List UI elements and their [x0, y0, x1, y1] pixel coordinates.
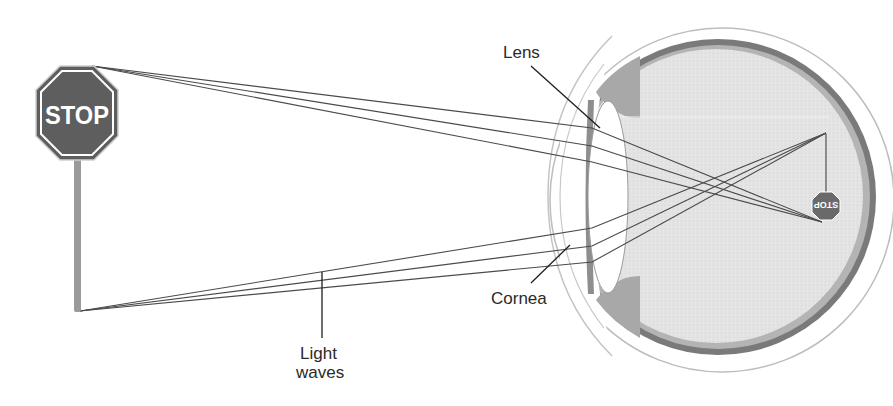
light-waves-label-line1: Light [300, 344, 337, 364]
stop-sign-text: STOP [45, 100, 109, 130]
lens-label: Lens [503, 43, 540, 63]
diagram-canvas: STOP STOP [0, 0, 893, 406]
eye-optics-diagram: STOP STOP Lens Cornea Light waves [0, 0, 893, 406]
stop-sign-pole [74, 158, 81, 312]
inverted-stop-text: STOP [814, 200, 838, 210]
stop-sign: STOP [36, 66, 118, 312]
lens [588, 101, 628, 293]
light-waves-label-line2: waves [296, 363, 344, 383]
cornea-label: Cornea [491, 289, 547, 309]
eyeball [548, 28, 893, 372]
